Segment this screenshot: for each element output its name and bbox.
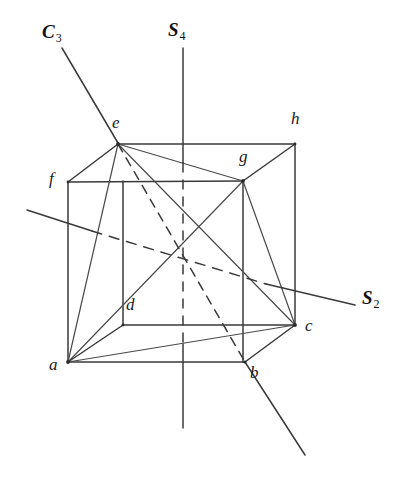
edge-a-d <box>68 325 123 362</box>
cube-diagram <box>0 0 407 483</box>
vertex-dot-h <box>294 143 297 146</box>
vertex-label-c: c <box>305 317 313 334</box>
axis-label-s2-subscript: 2 <box>374 297 380 311</box>
edge-b-c <box>245 325 295 362</box>
axis-c3-line-upper <box>62 48 118 143</box>
axis-s2-line-hidden <box>92 231 266 284</box>
vertex-dot-a <box>66 360 70 364</box>
tet-edge-a-c <box>68 325 295 362</box>
axis-s2-line-left <box>27 210 92 231</box>
vertex-dot-f <box>67 181 70 184</box>
axis-s2 <box>27 210 355 305</box>
axis-label-s4-letter: S <box>168 19 179 40</box>
tet-edge-e-c <box>118 144 295 325</box>
vertex-label-b: b <box>250 364 259 381</box>
edge-g-h <box>243 144 295 181</box>
axis-label-c3-letter: C <box>42 21 55 42</box>
vertex-dot-g <box>241 179 245 183</box>
cube-symmetry-figure: a b c d e f g h C3 S4 S2 <box>0 0 407 483</box>
vertex-dot-e <box>116 142 120 146</box>
vertex-label-g: g <box>239 148 248 165</box>
cube-visible-edges <box>68 144 295 362</box>
tet-edge-a-g <box>68 181 243 362</box>
tet-edge-c-g <box>243 181 295 325</box>
axis-s2-line-right <box>266 284 355 305</box>
vertex-label-d: d <box>126 296 135 313</box>
vertex-label-f: f <box>49 170 54 187</box>
axis-label-s2-letter: S <box>362 287 373 308</box>
axis-label-c3-subscript: 3 <box>56 31 62 45</box>
axis-label-s4: S4 <box>168 20 185 39</box>
vertex-label-e: e <box>112 114 120 131</box>
vertex-label-a: a <box>49 356 58 373</box>
vertex-dot-b <box>243 360 246 363</box>
axis-label-c3: C3 <box>42 22 61 41</box>
inscribed-tetrahedron-edges <box>68 144 295 362</box>
vertex-dot-d <box>122 324 125 327</box>
vertex-dot-c <box>293 323 297 327</box>
axis-c3-line-hidden <box>118 144 245 362</box>
axis-label-s4-subscript: 4 <box>180 29 186 43</box>
axis-label-s2: S2 <box>362 288 379 307</box>
vertex-label-h: h <box>291 110 300 127</box>
